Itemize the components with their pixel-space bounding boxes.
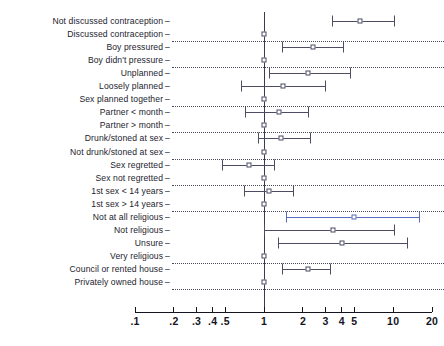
category-label: Not drunk/stoned at sex– <box>0 147 170 157</box>
category-label-text: Not discussed contraception <box>52 16 163 26</box>
estimate-marker <box>352 214 357 219</box>
confidence-interval-cap <box>278 237 279 248</box>
category-label: Not discussed contraception– <box>0 16 170 26</box>
reference-category-marker <box>262 280 267 285</box>
group-separator <box>172 263 444 264</box>
x-axis-tick <box>432 307 433 312</box>
confidence-interval-cap <box>419 211 420 222</box>
label-tick-dash: – <box>163 81 170 91</box>
confidence-interval-cap <box>241 81 242 92</box>
category-label-text: 1st sex > 14 years <box>91 199 163 209</box>
label-tick-dash: – <box>163 133 170 143</box>
category-label: 1st sex > 14 years– <box>0 199 170 209</box>
group-separator <box>172 67 444 68</box>
confidence-interval-cap <box>343 42 344 53</box>
label-tick-dash: – <box>163 160 170 170</box>
estimate-marker <box>357 19 362 24</box>
category-label-text: Privately owned house <box>75 277 164 287</box>
label-tick-dash: – <box>163 186 170 196</box>
estimate-marker <box>276 110 281 115</box>
reference-category-marker <box>262 175 267 180</box>
estimate-marker <box>311 45 316 50</box>
x-axis-tick <box>325 307 326 312</box>
confidence-interval-cap <box>282 42 283 53</box>
x-axis-tick-label: .4 <box>208 316 217 327</box>
label-tick-dash: – <box>163 94 170 104</box>
x-axis-tick-label: 2 <box>300 316 306 327</box>
category-label-text: Boy didn't pressure <box>88 55 163 65</box>
category-label: Unsure– <box>0 238 170 248</box>
category-label-text: Not at all religious <box>93 212 163 222</box>
x-axis-tick <box>225 307 226 312</box>
x-axis-tick-label: .1 <box>130 316 139 327</box>
label-tick-dash: – <box>163 55 170 65</box>
category-label: Discussed contraception– <box>0 29 170 39</box>
estimate-marker <box>267 188 272 193</box>
confidence-interval-cap <box>286 211 287 222</box>
confidence-interval-cap <box>350 68 351 79</box>
category-label-text: Council or rented house <box>70 264 164 274</box>
group-separator <box>172 185 444 186</box>
label-tick-dash: – <box>163 68 170 78</box>
confidence-interval-cap <box>269 68 270 79</box>
category-label: Not at all religious– <box>0 212 170 222</box>
category-label: 1st sex < 14 years– <box>0 186 170 196</box>
category-label-text: Sex planned together <box>79 94 163 104</box>
category-label: Boy didn't pressure– <box>0 55 170 65</box>
confidence-interval-cap <box>394 16 395 27</box>
group-separator <box>172 132 444 133</box>
category-label: Not religious– <box>0 225 170 235</box>
label-tick-dash: – <box>163 42 170 52</box>
label-tick-dash: – <box>163 238 170 248</box>
x-axis-tick <box>393 307 394 312</box>
x-axis-tick <box>354 307 355 312</box>
group-separator <box>172 211 444 212</box>
category-label: Partner < month– <box>0 107 170 117</box>
category-label: Sex planned together– <box>0 94 170 104</box>
reference-category-marker <box>262 201 267 206</box>
x-axis-tick-label: 4 <box>339 316 345 327</box>
x-axis-tick <box>173 307 174 312</box>
category-label-text: 1st sex < 14 years <box>91 186 163 196</box>
label-tick-dash: – <box>163 120 170 130</box>
category-label-text: Discussed contraception <box>67 29 163 39</box>
label-tick-dash: – <box>163 264 170 274</box>
reference-category-marker <box>262 97 267 102</box>
x-axis-tick <box>341 307 342 312</box>
x-axis-tick-label: .5 <box>221 316 230 327</box>
x-axis-tick-label: 10 <box>387 316 399 327</box>
x-axis-tick-label: .3 <box>192 316 201 327</box>
group-separator <box>172 159 444 160</box>
category-label: Council or rented house– <box>0 264 170 274</box>
confidence-interval-cap <box>274 159 275 170</box>
category-label-text: Drunk/stoned at sex <box>85 133 163 143</box>
estimate-marker <box>246 162 251 167</box>
label-tick-dash: – <box>163 212 170 222</box>
estimate-marker <box>339 240 344 245</box>
confidence-interval-cap <box>222 159 223 170</box>
category-label: Drunk/stoned at sex– <box>0 133 170 143</box>
category-label: Privately owned house– <box>0 277 170 287</box>
category-label-text: Boy pressured <box>106 42 163 52</box>
confidence-interval-cap <box>310 133 311 144</box>
x-axis-tick <box>196 307 197 312</box>
reference-category-marker <box>262 32 267 37</box>
category-label: Partner > month– <box>0 120 170 130</box>
label-tick-dash: – <box>163 173 170 183</box>
estimate-marker <box>306 71 311 76</box>
x-axis-tick-label: 3 <box>323 316 329 327</box>
x-axis-line <box>135 312 432 313</box>
category-label: Very religious– <box>0 251 170 261</box>
confidence-interval-cap <box>258 133 259 144</box>
confidence-interval-cap <box>330 263 331 274</box>
category-label: Loosely planned– <box>0 81 170 91</box>
category-label: Boy pressured– <box>0 42 170 52</box>
estimate-marker <box>330 227 335 232</box>
label-tick-dash: – <box>163 16 170 26</box>
confidence-interval-cap <box>245 107 246 118</box>
x-axis-tick <box>212 307 213 312</box>
x-axis-tick-label: 5 <box>351 316 357 327</box>
category-label: Sex regretted– <box>0 160 170 170</box>
x-axis-tick <box>264 307 265 312</box>
forest-plot: Not discussed contraception–Discussed co… <box>0 0 444 346</box>
